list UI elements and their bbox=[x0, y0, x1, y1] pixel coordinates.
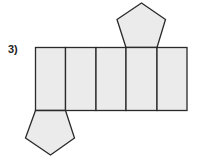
rect-face-2 bbox=[66, 48, 97, 111]
rect-face-3 bbox=[96, 48, 126, 111]
rect-face-1 bbox=[36, 48, 66, 111]
rect-face-5 bbox=[157, 48, 187, 111]
bottom-pentagon-face bbox=[26, 111, 75, 156]
top-pentagon-face bbox=[117, 3, 166, 48]
prism-net-diagram bbox=[0, 0, 197, 165]
rect-face-4 bbox=[126, 48, 157, 111]
